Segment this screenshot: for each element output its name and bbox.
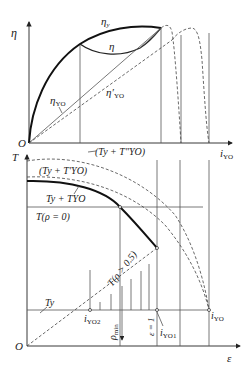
epsilon-axis-label: ε — [227, 352, 232, 364]
origin-label-lower: O — [15, 340, 23, 352]
iyo-axis-label: iYO — [220, 147, 233, 161]
eta-yo-prime-line — [29, 40, 172, 143]
upper-plot: η O iYO ηy η ηYO η′YO — [11, 15, 233, 161]
rho-min-label: ρmin — [107, 324, 120, 341]
ty-tyo-label: Ty + TYO — [46, 193, 85, 204]
eta-y-label: ηy — [101, 15, 110, 29]
i-yo1-label: iYO1 — [160, 327, 177, 340]
lower-plot: T O ε (Ty + T″YO) (Ty + T′YO) Ty + TYO T… — [12, 146, 240, 364]
epsilon-eq-1-label: ε = 1 — [146, 317, 156, 336]
eta-label: η — [109, 40, 114, 52]
dashed-hump-1 — [161, 25, 181, 143]
ty-tyo-double-prime-label: (Ty + T″YO) — [95, 146, 146, 158]
t-axis-label: T — [12, 151, 19, 163]
ty-tyo-prime-label: (Ty + T′YO) — [39, 165, 88, 177]
eta-yo-prime-label: η′YO — [106, 86, 124, 100]
eta-yo-line — [29, 28, 161, 143]
i-yo-label: iYO — [211, 310, 224, 323]
t-rho-0-label: T(ρ = 0) — [36, 211, 70, 223]
efficiency-temperature-diagram: η O iYO ηy η ηYO η′YO — [0, 0, 251, 372]
eta-axis-label: η — [11, 26, 17, 40]
eta-yo-label: ηYO — [50, 94, 66, 108]
dashed-hump-2 — [172, 28, 209, 143]
origin-label: O — [18, 137, 26, 149]
t-rho-05-label: T(ρ > 0.5) — [105, 248, 140, 288]
i-yo2-label: iYO2 — [84, 313, 101, 326]
eta-curve — [80, 28, 161, 54]
t-y-label: Ty — [45, 297, 55, 308]
